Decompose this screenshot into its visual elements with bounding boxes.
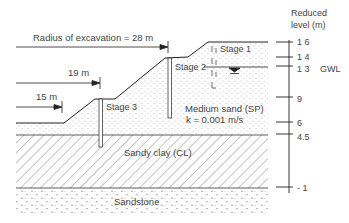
stage3-label: Stage 3 [106, 102, 137, 112]
stage2-well [168, 58, 172, 118]
clay-layer [16, 135, 268, 188]
gwl-label: GWL [320, 64, 341, 74]
radius-15-label: 15 m [36, 91, 57, 102]
tick-label-9: 9 [297, 94, 302, 104]
axis-title-line2: level (m) [291, 20, 326, 30]
tick-label-6: 6 [297, 118, 302, 128]
axis-ticks [276, 42, 293, 187]
sandstone-label: Sandstone [114, 196, 159, 207]
tick-label-13: 1 3 [297, 64, 310, 74]
tick-label-16: 1 6 [297, 37, 310, 47]
sand-label: Medium sand (SP) [185, 103, 264, 114]
sand-k-label: k = 0.001 m/s [186, 114, 244, 125]
stage2-label: Stage 2 [175, 62, 206, 72]
radius-19-label: 19 m [68, 67, 89, 78]
tick-label-14: 1 4 [297, 52, 310, 62]
axis-title-line1: Reduced [291, 8, 327, 18]
tick-label-neg1: - 1 [297, 183, 308, 193]
radius-28-label: Radius of excavation = 28 m [33, 32, 153, 43]
stage1-label: Stage 1 [220, 44, 251, 54]
radius-19-dimension [16, 77, 100, 89]
tick-label-4-5: 4.5 [297, 132, 310, 142]
stage3-well [99, 99, 103, 147]
excavation-cross-section: Radius of excavation = 28 m 19 m 15 m St… [0, 0, 349, 223]
radius-15-dimension [16, 101, 62, 113]
clay-label: Sandy clay (CL) [124, 147, 192, 158]
